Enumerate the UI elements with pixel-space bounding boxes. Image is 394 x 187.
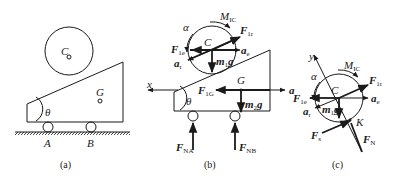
label-G: G (96, 86, 104, 98)
label-M-IC: MIC (343, 59, 361, 73)
label-C: C (61, 45, 69, 57)
label-A: A (43, 137, 51, 149)
label-FN: FN (362, 133, 375, 147)
ar-arrow (188, 50, 212, 60)
wheel-A (188, 111, 198, 121)
label-y: y (308, 50, 314, 62)
panel-a: C θ G A B (a) (15, 27, 130, 171)
disk (45, 27, 93, 75)
label-ar: ar (303, 105, 312, 119)
panel-b: α MIC F1e ae F1r ar C m1g θ x F1G a G (146, 10, 295, 171)
F1r-arrow (339, 85, 368, 98)
label-ar: ar (174, 57, 183, 71)
label-B: B (87, 137, 94, 149)
label-F1e: F1e (170, 43, 185, 57)
label-M-IC: MIC (219, 10, 237, 24)
caption-c: (c) (332, 159, 343, 171)
panel-c: y α MIC F1e ae F1r ar C m1g K Fs FN (c) (292, 50, 383, 171)
label-m1g: m1g (322, 103, 340, 117)
Fs-arrow (322, 121, 350, 133)
label-Fs: Fs (310, 129, 321, 143)
label-ae: ae (371, 92, 380, 106)
caption-a: (a) (60, 159, 71, 171)
label-theta: θ (45, 106, 51, 118)
label-G: G (237, 74, 245, 86)
label-F1e: F1e (292, 92, 307, 106)
figure-canvas: C θ G A B (a) α MIC F1e ae F1r ar C (0, 0, 394, 187)
label-x: x (146, 78, 152, 90)
wheel-A (43, 122, 53, 132)
label-FNB: FNB (238, 141, 256, 155)
label-alpha: α (311, 70, 317, 82)
label-ae: ae (241, 44, 250, 58)
label-F1r: F1r (368, 74, 383, 88)
label-F1G: F1G (197, 84, 214, 98)
wheel-B (86, 122, 96, 132)
label-FNA: FNA (175, 141, 193, 155)
label-C: C (331, 84, 339, 96)
wheel-B (230, 111, 240, 121)
label-K: K (355, 116, 364, 128)
label-alpha: α (183, 21, 189, 33)
label-C: C (204, 36, 212, 48)
caption-b: (b) (204, 159, 216, 171)
label-theta: θ (186, 95, 192, 107)
label-m2g: m2g (245, 98, 263, 112)
label-F1r: F1r (239, 24, 254, 38)
wedge-block (27, 62, 123, 122)
theta-arc (36, 97, 43, 121)
center-of-mass-marker (98, 99, 102, 103)
